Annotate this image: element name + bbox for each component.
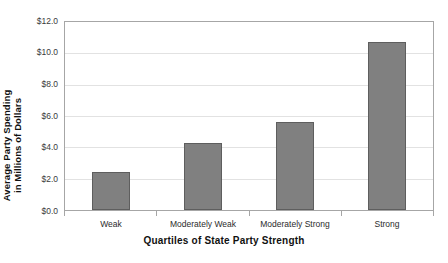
x-axis-tick-labels: Weak Moderately Weak Moderately Strong S… xyxy=(65,218,433,232)
bar-slot xyxy=(65,22,157,210)
bar-moderately-strong[interactable] xyxy=(276,122,314,210)
bar-chart: Average Party Spending in Millions of Do… xyxy=(0,0,448,263)
y-tick-label: $2.0 xyxy=(12,175,58,184)
x-tick-label-moderately-strong: Moderately Strong xyxy=(249,218,341,232)
x-tick xyxy=(433,211,434,216)
bar-slot xyxy=(157,22,249,210)
y-axis-title: Average Party Spending in Millions of Do… xyxy=(0,0,30,263)
x-axis-title: Quartiles of State Party Strength xyxy=(0,235,448,246)
y-tick-label: $4.0 xyxy=(12,143,58,152)
y-tick-label: $12.0 xyxy=(12,17,58,26)
y-tick-label: $0.0 xyxy=(12,207,58,216)
x-tick xyxy=(64,211,65,216)
x-tick-label-strong: Strong xyxy=(341,218,433,232)
x-tick xyxy=(156,211,157,216)
bar-strong[interactable] xyxy=(368,42,406,210)
y-tick-label: $6.0 xyxy=(12,112,58,121)
y-tick-label: $8.0 xyxy=(12,80,58,89)
x-axis-ticks xyxy=(64,211,434,216)
y-tick-label: $10.0 xyxy=(12,48,58,57)
x-tick-label-weak: Weak xyxy=(65,218,157,232)
bar-slot xyxy=(249,22,341,210)
bar-weak[interactable] xyxy=(92,172,130,210)
bar-slot xyxy=(341,22,433,210)
x-tick xyxy=(341,211,342,216)
x-tick xyxy=(249,211,250,216)
y-axis-title-line-1: Average Party Spending xyxy=(1,90,13,202)
bar-moderately-weak[interactable] xyxy=(184,143,222,210)
bars-container xyxy=(65,22,433,210)
x-tick-label-moderately-weak: Moderately Weak xyxy=(157,218,249,232)
